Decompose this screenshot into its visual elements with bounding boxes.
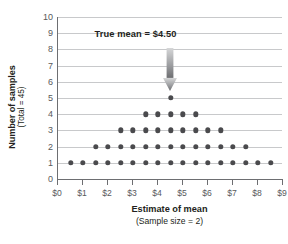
y-tick-label: 6	[34, 77, 53, 87]
y-axis-title-sub: (Total = 45)	[18, 65, 27, 149]
data-point	[193, 111, 198, 116]
y-tick-label: 7	[34, 61, 53, 71]
data-point	[118, 144, 123, 149]
x-tick-label: $5	[177, 188, 187, 198]
data-point	[155, 144, 160, 149]
data-point	[105, 144, 110, 149]
data-point	[180, 144, 185, 149]
data-point	[218, 144, 223, 149]
x-tick-mark	[82, 179, 83, 185]
y-tick-label: 10	[34, 12, 53, 22]
x-tick-label: $9	[277, 188, 287, 198]
data-point	[130, 128, 135, 133]
x-tick-mark	[257, 179, 258, 185]
data-point	[268, 160, 273, 165]
data-point	[168, 160, 173, 165]
y-tick-label: 3	[34, 125, 53, 135]
data-point	[205, 128, 210, 133]
true-mean-annotation-label: True mean = $4.50	[95, 29, 177, 39]
x-tick-mark	[107, 179, 108, 185]
x-tick-label: $2	[102, 188, 112, 198]
data-point	[180, 111, 185, 116]
x-tick-mark	[207, 179, 208, 185]
y-tick-label: 9	[34, 28, 53, 38]
data-point	[80, 160, 85, 165]
data-point	[193, 128, 198, 133]
data-point	[218, 128, 223, 133]
x-tick-mark	[57, 179, 58, 185]
x-tick-label: $6	[202, 188, 212, 198]
data-point	[105, 160, 110, 165]
x-axis-title-main: Estimate of mean	[57, 204, 282, 216]
x-tick-label: $3	[127, 188, 137, 198]
x-tick-label: $0	[52, 188, 62, 198]
y-tick-label: 5	[34, 93, 53, 103]
data-point	[230, 160, 235, 165]
x-tick-label: $7	[227, 188, 237, 198]
y-axis-tick-labels: 012345678910	[34, 0, 53, 244]
data-point	[243, 144, 248, 149]
data-point	[155, 160, 160, 165]
data-point	[118, 160, 123, 165]
data-point	[93, 160, 98, 165]
data-point	[143, 111, 148, 116]
plot-area	[57, 17, 282, 179]
data-point	[193, 160, 198, 165]
data-point	[243, 160, 248, 165]
y-tick-label: 1	[34, 158, 53, 168]
x-axis-title: Estimate of mean (Sample size = 2)	[57, 204, 282, 226]
data-point	[118, 128, 123, 133]
data-point	[143, 144, 148, 149]
data-point	[168, 144, 173, 149]
data-point	[255, 160, 260, 165]
data-point	[205, 160, 210, 165]
x-tick-mark	[157, 179, 158, 185]
x-tick-label: $1	[77, 188, 87, 198]
data-point	[205, 144, 210, 149]
data-point	[143, 128, 148, 133]
data-point	[155, 128, 160, 133]
data-point	[180, 160, 185, 165]
gridline	[58, 17, 282, 18]
y-axis-title: Number of samples (Total = 45)	[0, 44, 34, 170]
data-point	[218, 160, 223, 165]
data-point	[93, 144, 98, 149]
data-point	[168, 111, 173, 116]
x-tick-mark	[232, 179, 233, 185]
data-point	[155, 111, 160, 116]
x-tick-mark	[132, 179, 133, 185]
data-point	[130, 144, 135, 149]
y-tick-label: 4	[34, 109, 53, 119]
y-tick-label: 2	[34, 142, 53, 152]
data-point	[230, 144, 235, 149]
x-axis-line	[57, 179, 282, 180]
x-axis-title-sub: (Sample size = 2)	[57, 216, 282, 227]
x-tick-label: $4	[152, 188, 162, 198]
data-point	[143, 160, 148, 165]
data-point	[168, 95, 173, 100]
y-tick-label: 8	[34, 44, 53, 54]
x-tick-mark	[282, 179, 283, 185]
data-point	[130, 160, 135, 165]
x-tick-mark	[182, 179, 183, 185]
data-point	[193, 144, 198, 149]
dot-plot-figure: Number of samples (Total = 45) 012345678…	[0, 0, 288, 244]
data-point	[180, 128, 185, 133]
true-mean-arrow-icon	[158, 48, 182, 91]
x-tick-label: $8	[252, 188, 262, 198]
data-point	[68, 160, 73, 165]
data-point	[168, 128, 173, 133]
y-tick-label: 0	[34, 174, 53, 184]
